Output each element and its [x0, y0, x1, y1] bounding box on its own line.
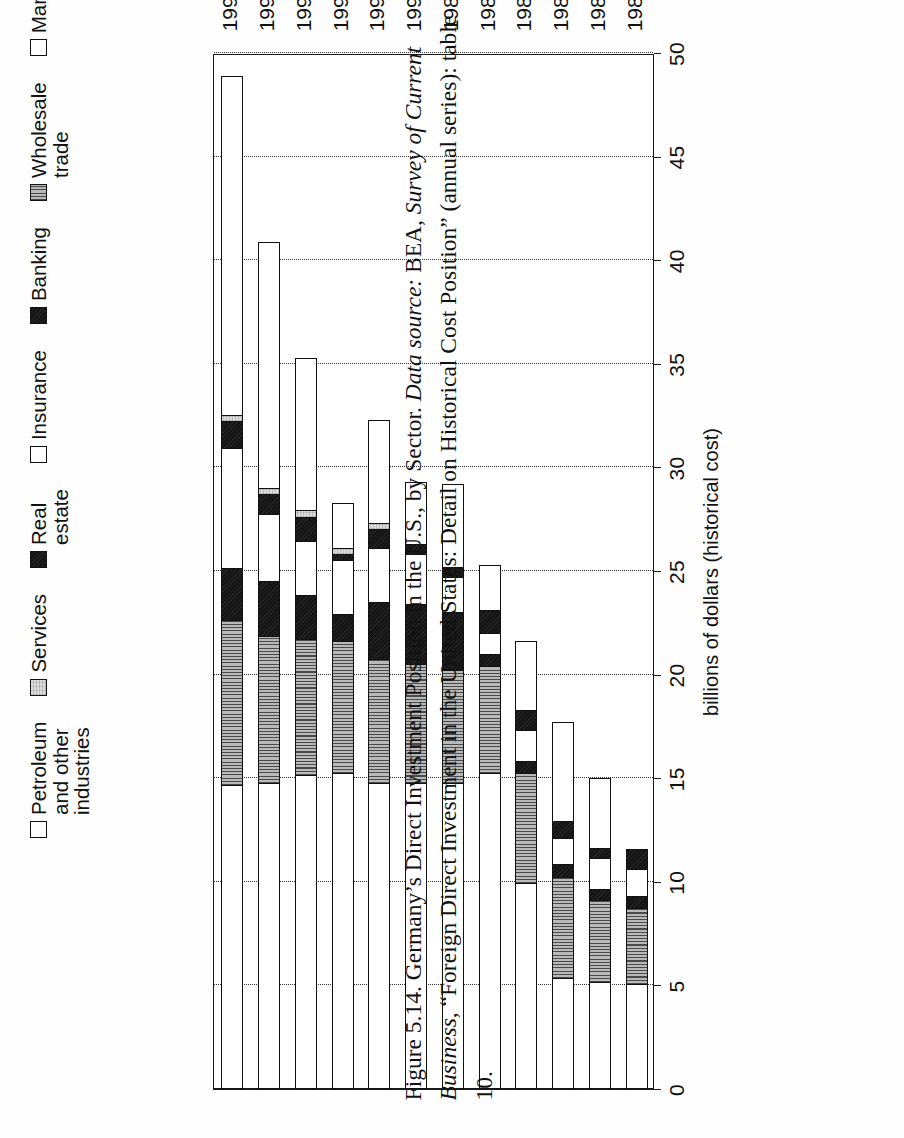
legend-item-real-estate[interactable]: Real estate [28, 489, 71, 568]
legend-label: Services [28, 594, 50, 673]
bar-segment-real-estate-1992 [333, 555, 353, 561]
black-square-icon [30, 307, 47, 324]
bar-segment-banking-1986 [553, 865, 573, 877]
chart-legend: Petroleum and other industriesServicesRe… [28, 138, 148, 838]
value-tick-45 [654, 157, 661, 158]
legend-label: Real estate [28, 489, 71, 545]
legend-item-petroleum-and-other-industries[interactable]: Petroleum and other industries [28, 722, 93, 838]
stacked-bar-1986[interactable] [552, 722, 574, 1089]
bar-segment-wholesale-trade-1993 [296, 640, 316, 776]
legend-label: Petroleum and other industries [28, 722, 93, 815]
category-label-1994: 1994 [255, 0, 279, 31]
value-tick-label-15: 15 [665, 767, 689, 791]
legend-label: Insurance [28, 350, 50, 440]
bar-segment-services-1994 [259, 489, 279, 495]
bar-row-1994 [258, 55, 280, 1089]
value-tick-50 [654, 53, 661, 54]
bar-segment-wholesale-trade-1986 [553, 878, 573, 979]
bar-segment-real-estate-1991 [369, 530, 389, 549]
category-label-1986: 1986 [549, 0, 573, 31]
bar-row-1986 [552, 55, 574, 1089]
value-axis: 50454035302520151050 [654, 54, 700, 1090]
value-tick-label-0: 0 [665, 1084, 689, 1096]
value-tick-label-30: 30 [665, 456, 689, 480]
stacked-bar-1994[interactable] [258, 242, 280, 1089]
category-label-1993: 1993 [292, 0, 316, 31]
bar-segment-insurance-1985 [590, 859, 610, 890]
legend-item-services[interactable]: Services [28, 594, 50, 696]
bar-segment-manufacturing-1995 [222, 786, 242, 1088]
bar-segment-insurance-1986 [553, 839, 573, 866]
category-label-1984: 1984 [623, 0, 647, 31]
bar-segment-petroleum-and-other-industries-1994 [259, 243, 279, 489]
bar-segment-petroleum-and-other-industries-1993 [296, 359, 316, 512]
bar-segment-manufacturing-1991 [369, 784, 389, 1088]
bar-segment-wholesale-trade-1985 [590, 901, 610, 983]
bar-segment-insurance-1993 [296, 542, 316, 596]
bar-row-1984 [626, 55, 648, 1089]
value-tick-label-35: 35 [665, 353, 689, 377]
bar-segment-banking-1994 [259, 582, 279, 638]
legend-item-insurance[interactable]: Insurance [28, 350, 50, 463]
legend-label: Wholesale trade [28, 82, 71, 178]
category-label-1992: 1992 [329, 0, 353, 31]
bar-segment-banking-1995 [222, 569, 242, 621]
bar-segment-banking-1991 [369, 603, 389, 661]
bar-segment-insurance-1987 [516, 731, 536, 762]
value-axis-title: billions of dollars (historical cost) [700, 54, 723, 1090]
legend-item-manufacturing[interactable]: Manufacturing [28, 0, 50, 56]
caption-source-rest: BEA, [400, 214, 426, 279]
value-tick-label-10: 10 [665, 871, 689, 895]
bar-segment-banking-1987 [516, 762, 536, 774]
caption-main: Germany’s Direct Investment Position in … [400, 407, 426, 980]
bar-segment-real-estate-1995 [222, 422, 242, 449]
bar-segment-services-1992 [333, 549, 353, 555]
bar-segment-wholesale-trade-1984 [627, 909, 647, 985]
stacked-bar-1984[interactable] [626, 849, 648, 1089]
value-tick-30 [654, 467, 661, 468]
white-square-icon [30, 446, 47, 463]
legend-label: Banking [28, 227, 50, 301]
bar-segment-banking-1992 [333, 615, 353, 642]
category-label-1985: 1985 [586, 0, 610, 31]
bar-segment-real-estate-1994 [259, 495, 279, 516]
value-tick-5 [654, 985, 661, 986]
bar-segment-wholesale-trade-1987 [516, 774, 536, 883]
bar-segment-insurance-1992 [333, 561, 353, 615]
bar-segment-wholesale-trade-1992 [333, 642, 353, 774]
bar-row-1995 [221, 55, 243, 1089]
bar-segment-real-estate-1987 [516, 711, 536, 732]
bar-segment-insurance-1994 [259, 515, 279, 581]
bar-row-1991 [368, 55, 390, 1089]
bar-segment-manufacturing-1986 [553, 979, 573, 1088]
value-tick-label-50: 50 [665, 42, 689, 66]
stacked-bar-1993[interactable] [295, 358, 317, 1089]
legend-item-banking[interactable]: Banking [28, 227, 50, 324]
bar-segment-manufacturing-1985 [590, 983, 610, 1088]
stacked-bar-1991[interactable] [368, 420, 390, 1089]
stacked-bar-1985[interactable] [589, 778, 611, 1089]
value-tick-25 [654, 571, 661, 572]
value-tick-15 [654, 778, 661, 779]
bar-segment-wholesale-trade-1994 [259, 637, 279, 784]
figure-number: Figure 5.14. [400, 986, 426, 1100]
value-tick-0 [654, 1089, 661, 1090]
value-tick-20 [654, 675, 661, 676]
bar-row-1987 [515, 55, 537, 1089]
stacked-bar-1995[interactable] [221, 76, 243, 1089]
caption-source-label: Data source: [400, 279, 426, 401]
bar-row-1993 [295, 55, 317, 1089]
bar-row-1985 [589, 55, 611, 1089]
white-square-icon [30, 821, 47, 838]
bar-segment-manufacturing-1987 [516, 884, 536, 1088]
bar-segment-real-estate-1986 [553, 822, 573, 838]
category-label-1995: 1995 [218, 0, 242, 31]
stacked-bar-1992[interactable] [332, 503, 354, 1089]
stacked-bar-1987[interactable] [515, 641, 537, 1089]
legend-item-wholesale-trade[interactable]: Wholesale trade [28, 82, 71, 201]
bar-segment-wholesale-trade-1995 [222, 621, 242, 786]
value-tick-label-25: 25 [665, 560, 689, 584]
value-tick-10 [654, 882, 661, 883]
bar-segment-insurance-1991 [369, 549, 389, 603]
bar-segment-banking-1993 [296, 596, 316, 639]
